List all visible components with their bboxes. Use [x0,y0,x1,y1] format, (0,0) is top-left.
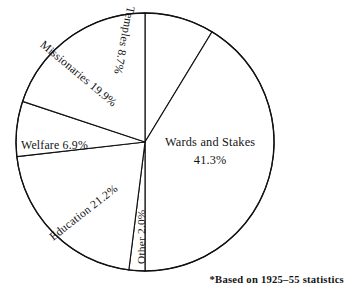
slice-label-welfare: Welfare 6.9% [21,138,88,153]
slice-label-wards-and-stakes-name: Wards and Stakes [165,135,255,149]
pie-chart: Wards and Stakes 41.3% Temples 8.7% Miss… [0,0,352,292]
slice-label-wards-and-stakes-value: 41.3% [165,152,255,170]
chart-footnote: *Based on 1925–55 statistics [210,274,344,285]
slice-label-wards-and-stakes: Wards and Stakes 41.3% [165,134,255,170]
slice-label-other: Other 2.0% [134,209,148,264]
